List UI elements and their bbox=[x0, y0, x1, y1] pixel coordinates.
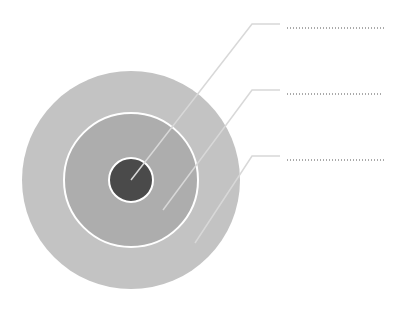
concentric-circles-diagram bbox=[0, 0, 401, 309]
